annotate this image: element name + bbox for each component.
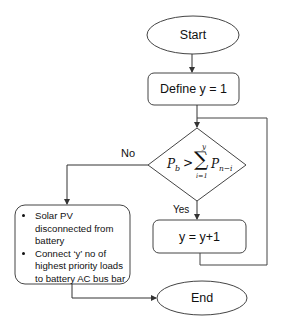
increment-node-label: y = y+1	[153, 220, 246, 253]
action-bullet: Solar PV disconnected from battery	[35, 210, 131, 248]
edge-label-no: No	[121, 147, 135, 159]
formula-operator: >	[183, 156, 193, 170]
edge-label-yes: Yes	[173, 204, 189, 215]
end-node-label: End	[157, 281, 247, 315]
formula-rhs-sub: n−i	[219, 164, 233, 173]
define-node-label: Define y = 1	[148, 73, 239, 105]
formula-sum-symbol: ∑	[194, 149, 208, 169]
formula-sum-lower: i=1	[196, 172, 208, 180]
formula-rhs: P	[211, 157, 219, 171]
formula-lhs-sub: b	[175, 164, 180, 173]
action-bullet: Connect ‘y’ no of highest priority loads…	[35, 248, 131, 286]
formula-lhs: P	[167, 157, 175, 171]
edge-action-end	[72, 284, 156, 298]
start-node-label: Start	[147, 16, 239, 54]
action-node-text: Solar PV disconnected from battery Conne…	[17, 210, 131, 286]
edge-no	[67, 165, 148, 204]
